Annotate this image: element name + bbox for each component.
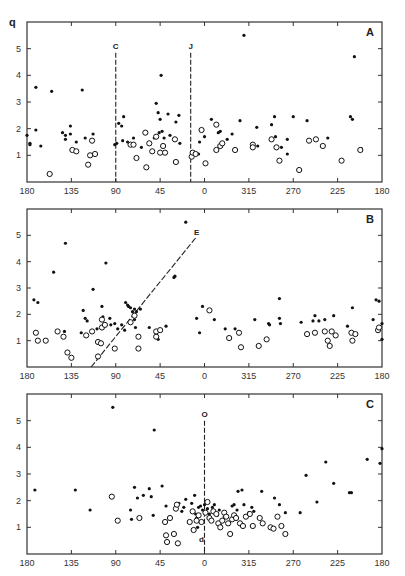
data-point-filled [89, 508, 92, 511]
data-point-open [65, 350, 70, 355]
data-point-open [154, 334, 159, 339]
data-point-open [99, 317, 104, 322]
data-point-filled [250, 506, 253, 509]
data-point-filled [190, 502, 193, 505]
data-point-open [33, 330, 38, 335]
data-point-filled [252, 510, 255, 513]
scatter-plot-c: 1801359045031527022518012345COd [0, 375, 405, 576]
data-point-filled [148, 326, 151, 329]
data-point-filled [28, 143, 31, 146]
x-tick-label: 0 [202, 558, 207, 568]
data-point-open [158, 328, 163, 333]
data-point-open [191, 527, 196, 532]
y-tick-label: 3 [16, 469, 21, 479]
data-point-filled [159, 118, 162, 121]
data-point-filled [132, 136, 135, 139]
scatter-plot-b: 1801359045031527022518012345BE [0, 190, 405, 380]
data-point-filled [177, 114, 180, 117]
data-point-open [240, 523, 245, 528]
data-point-open [136, 334, 141, 339]
data-point-open [376, 325, 381, 330]
x-tick-label: 225 [330, 558, 345, 568]
data-point-open [313, 137, 318, 142]
y-tick-label: 1 [16, 336, 21, 346]
data-point-open [172, 137, 177, 142]
data-point-open [194, 518, 199, 523]
data-point-filled [64, 242, 67, 245]
data-point-open [320, 143, 325, 148]
panel-letter: C [366, 398, 374, 410]
data-point-filled [255, 126, 258, 129]
data-point-open [92, 151, 97, 156]
data-point-open [109, 494, 114, 499]
data-point-filled [378, 462, 381, 465]
data-point-open [164, 539, 169, 544]
data-point-open [339, 158, 344, 163]
data-point-filled [124, 301, 127, 304]
data-point-filled [158, 131, 161, 134]
data-point-open [187, 519, 192, 524]
data-point-open [35, 338, 40, 343]
data-point-filled [198, 140, 201, 143]
data-point-filled [104, 261, 107, 264]
data-point-filled [240, 488, 243, 491]
data-point-filled [260, 490, 263, 493]
data-point-open [147, 141, 152, 146]
data-point-filled [121, 139, 124, 142]
data-point-filled [120, 124, 123, 127]
data-point-open [269, 137, 274, 142]
data-point-open [98, 341, 103, 346]
data-point-filled [380, 447, 383, 450]
y-tick-label: 1 [16, 522, 21, 532]
data-point-filled [349, 115, 352, 118]
data-point-open [279, 523, 284, 528]
data-point-open [233, 515, 238, 520]
data-point-open [171, 531, 176, 536]
data-point-open [218, 525, 223, 530]
data-point-filled [233, 327, 236, 330]
data-point-open [84, 333, 89, 338]
panel-c: 1801359045031527022518012345COd [0, 375, 405, 576]
plot-frame [27, 22, 382, 182]
data-point-filled [74, 488, 77, 491]
data-point-filled [273, 115, 276, 118]
data-point-filled [150, 495, 153, 498]
data-point-filled [184, 498, 187, 501]
data-point-open [160, 143, 165, 148]
data-point-filled [253, 318, 256, 321]
data-point-filled [231, 132, 234, 135]
data-point-filled [305, 119, 308, 122]
data-point-filled [91, 132, 94, 135]
data-point-filled [377, 300, 380, 303]
data-point-filled [136, 496, 139, 499]
data-point-filled [81, 88, 84, 91]
y-tick-label: 2 [16, 309, 21, 319]
panel-letter: B [366, 213, 374, 225]
data-point-open [61, 334, 66, 339]
panel-letter: A [366, 26, 374, 38]
data-point-filled [304, 474, 307, 477]
data-point-filled [280, 146, 283, 149]
reference-line-label: C [113, 42, 119, 51]
data-point-open [333, 333, 338, 338]
data-point-filled [178, 142, 181, 145]
data-point-filled [160, 74, 163, 77]
data-point-filled [273, 496, 276, 499]
data-point-filled [133, 486, 136, 489]
data-point-open [214, 122, 219, 127]
data-point-filled [84, 317, 87, 320]
data-point-open [264, 337, 269, 342]
data-point-open [199, 519, 204, 524]
data-point-open [162, 519, 167, 524]
data-point-open [322, 329, 327, 334]
data-point-open [150, 149, 155, 154]
data-point-filled [129, 508, 132, 511]
data-point-open [203, 161, 208, 166]
data-point-filled [153, 428, 156, 431]
data-point-filled [274, 135, 277, 138]
data-point-filled [242, 503, 245, 506]
data-point-open [274, 145, 279, 150]
data-point-filled [166, 112, 169, 115]
data-point-filled [198, 331, 201, 334]
data-point-filled [152, 514, 155, 517]
